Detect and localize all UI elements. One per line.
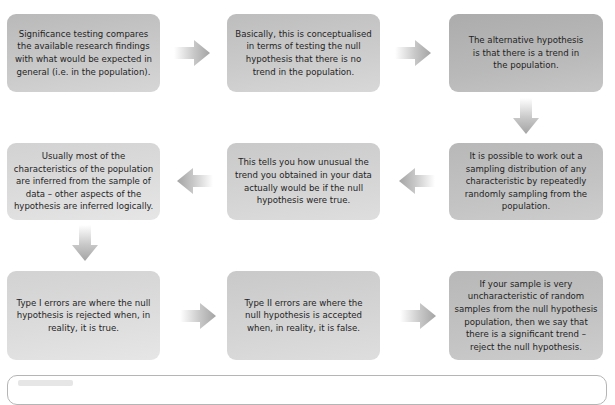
panel-tab [18,380,73,386]
step-6-text: Usually most of the characteristics of t… [12,150,155,213]
step-7-box: Type I errors are where the null hypothe… [7,271,160,360]
arrow-right-icon [400,303,436,329]
arrow-down-icon [72,225,98,261]
arrow-right-icon [180,303,216,329]
arrow-left-icon [177,168,213,194]
step-9-box: If your sample is very uncharacteristic … [449,271,603,360]
step-8-box: Type II errors are where the null hypoth… [227,271,380,360]
step-2-text: Basically, this is conceptualised in ter… [235,28,372,78]
arrow-left-icon [399,168,435,194]
arrow-right-icon [174,40,210,66]
step-3-box: The alternative hypothesis is that there… [449,14,603,92]
arrow-right-icon [395,40,431,66]
step-6-box: Usually most of the characteristics of t… [7,143,160,220]
step-5-text: This tells you how unusual the trend you… [235,156,372,206]
step-8-text: Type II errors are where the null hypoth… [243,297,364,335]
step-1-text: Significance testing compares the availa… [15,28,152,78]
bottom-panel [7,375,607,405]
step-9-text: If your sample is very uncharacteristic … [453,278,599,354]
step-5-box: This tells you how unusual the trend you… [227,143,380,220]
step-1-box: Significance testing compares the availa… [7,14,160,92]
step-4-text: It is possible to work out a sampling di… [461,150,591,213]
step-3-text: The alternative hypothesis is that there… [467,34,585,72]
arrow-down-icon [513,98,539,134]
step-7-text: Type I errors are where the null hypothe… [15,297,152,335]
step-2-box: Basically, this is conceptualised in ter… [227,14,380,92]
step-4-box: It is possible to work out a sampling di… [449,143,603,220]
